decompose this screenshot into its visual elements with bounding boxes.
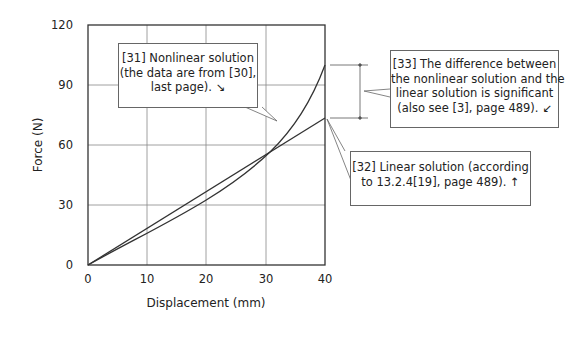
svg-text:0: 0 <box>84 272 91 286</box>
callout-33-line: (also see [3], page 489). ↙ <box>391 101 558 116</box>
y-tick-labels: 120 90 60 30 0 <box>51 18 73 272</box>
svg-text:0: 0 <box>66 258 73 272</box>
callout-33-line: linear solution is significant <box>391 86 558 101</box>
svg-text:60: 60 <box>58 138 73 152</box>
y-axis-label: Force (N) <box>31 118 45 173</box>
callout-33-line: [33] The difference between <box>391 57 558 72</box>
svg-text:10: 10 <box>140 272 155 286</box>
svg-text:90: 90 <box>58 78 73 92</box>
callout-32-line: [32] Linear solution (according <box>351 160 530 175</box>
svg-text:30: 30 <box>58 198 73 212</box>
svg-text:30: 30 <box>259 272 274 286</box>
difference-bracket <box>330 64 368 120</box>
svg-text:120: 120 <box>51 18 73 32</box>
callout-33-difference: [33] The difference between the nonlinea… <box>390 50 559 128</box>
callout-32-line: to 13.2.4[19], page 489). ↑ <box>351 175 530 190</box>
callout-31-line: last page). ↘ <box>119 80 257 95</box>
linear-solution-line <box>88 118 325 265</box>
callout-33-line: the nonlinear solution and the <box>391 72 558 87</box>
svg-text:20: 20 <box>199 272 214 286</box>
svg-text:40: 40 <box>318 272 333 286</box>
x-axis-label: Displacement (mm) <box>146 296 265 310</box>
callout-31-nonlinear: [31] Nonlinear solution (the data are fr… <box>118 43 258 108</box>
x-tick-labels: 0 10 20 30 40 <box>84 272 332 286</box>
callout-31-line: [31] Nonlinear solution <box>119 51 257 66</box>
callout-32-linear: [32] Linear solution (according to 13.2.… <box>350 151 531 206</box>
callout-31-line: (the data are from [30], <box>119 66 257 81</box>
